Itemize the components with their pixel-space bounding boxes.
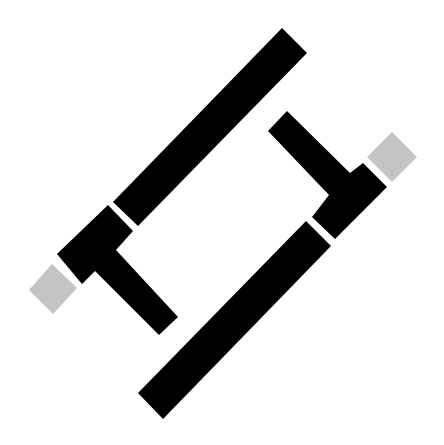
left-gray-square [29,264,77,314]
left-t-piece [57,205,178,335]
right-t-piece [268,111,387,239]
abstract-figure [0,0,444,445]
figure-canvas [0,0,444,445]
